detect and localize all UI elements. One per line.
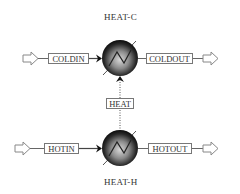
stream-hotout[interactable]: HOTOUT [148,143,192,154]
stream-hotin[interactable]: HOTIN [44,143,79,154]
heat-h-label: HEAT-H [104,177,137,187]
heat-inlet-arrowhead-icon [116,76,124,82]
coldin-feed-arrow-icon[interactable] [23,52,38,65]
heat-c-block[interactable] [102,40,138,76]
heat-h-block[interactable] [102,130,138,166]
flowsheet-canvas [0,0,240,194]
coldout-product-arrow-icon[interactable] [203,52,218,65]
stream-coldout[interactable]: COLDOUT [146,53,193,64]
hotout-product-arrow-icon[interactable] [203,142,218,155]
stream-heat[interactable]: HEAT [106,98,134,109]
stream-coldin[interactable]: COLDIN [48,53,89,64]
heat-c-label: HEAT-C [104,12,137,22]
hotin-feed-arrow-icon[interactable] [15,142,30,155]
